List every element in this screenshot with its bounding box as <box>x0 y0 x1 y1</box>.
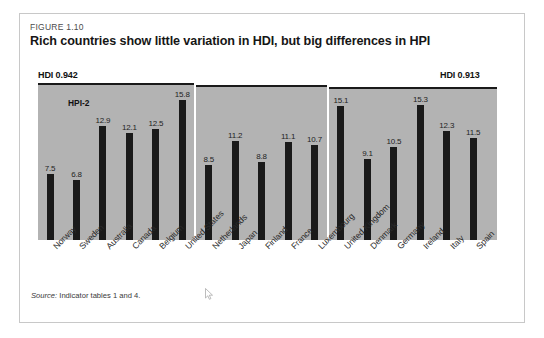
bar-value-label: 12.9 <box>92 116 114 125</box>
source-text: Indicator tables 1 and 4. <box>57 291 140 300</box>
bar-value-label: 11.2 <box>224 131 246 140</box>
bar-value-label: 10.5 <box>383 137 405 146</box>
mouse-cursor-icon <box>205 288 214 300</box>
hdi-left-label: HDI 0.942 <box>38 70 78 80</box>
bar <box>311 145 318 240</box>
bar <box>258 162 265 240</box>
bar <box>470 138 477 240</box>
bar <box>152 129 159 240</box>
bar-value-label: 8.5 <box>198 155 220 164</box>
bar-chart-plot: 7.56.812.912.112.515.88.511.28.811.110.7… <box>38 85 497 240</box>
hdi-right-label: HDI 0.913 <box>440 70 480 80</box>
bar-value-label: 15.1 <box>330 96 352 105</box>
page-title: Rich countries show little variation in … <box>30 34 430 48</box>
bar <box>47 174 54 240</box>
hdi-band <box>38 83 194 240</box>
bar <box>443 131 450 240</box>
source-prefix: Source: <box>31 291 57 300</box>
bar-value-label: 12.1 <box>118 123 140 132</box>
figure-page: FIGURE 1.10 Rich countries show little v… <box>0 0 544 338</box>
source-note: Source: Indicator tables 1 and 4. <box>31 291 140 300</box>
bar-value-label: 12.5 <box>145 119 167 128</box>
bar-value-label: 15.8 <box>171 90 193 99</box>
bar-value-label: 11.5 <box>462 128 484 137</box>
bar-value-label: 15.3 <box>409 95 431 104</box>
bar-value-label: 6.8 <box>65 170 87 179</box>
bar-value-label: 10.7 <box>304 135 326 144</box>
bar-value-label: 9.1 <box>356 149 378 158</box>
bar <box>285 142 292 240</box>
series-callout-label: HPI-2 <box>68 98 89 108</box>
bar-value-label: 12.3 <box>436 121 458 130</box>
bar <box>99 126 106 240</box>
bar <box>179 100 186 240</box>
bar-value-label: 7.5 <box>39 164 61 173</box>
figure-number: FIGURE 1.10 <box>30 22 84 32</box>
bar-value-label: 8.8 <box>251 152 273 161</box>
bar-value-label: 11.1 <box>277 132 299 141</box>
